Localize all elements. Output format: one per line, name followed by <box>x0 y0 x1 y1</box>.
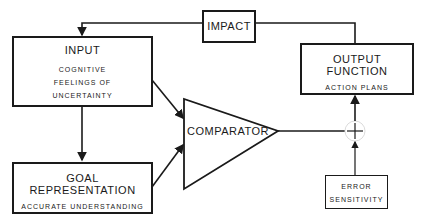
goal-title: GOAL REPRESENTATION <box>14 172 151 196</box>
error-line-2: SENSITIVITY <box>326 193 387 206</box>
error-sensitivity-box: ERROR SENSITIVITY <box>325 175 388 209</box>
input-box: INPUT COGNITIVE FEELINGS OF UNCERTAINTY <box>12 36 153 107</box>
error-line-1: ERROR <box>326 180 387 193</box>
edge-impact-to-input <box>82 23 202 35</box>
comparator-triangle <box>184 99 278 189</box>
input-title: INPUT <box>14 44 151 56</box>
input-line-1: COGNITIVE <box>14 63 151 76</box>
output-title: OUTPUT FUNCTION <box>302 53 412 77</box>
goal-representation-box: GOAL REPRESENTATION ACCURATE UNDERSTANDI… <box>12 162 153 214</box>
input-line-2: FEELINGS OF <box>14 76 151 89</box>
edge-output-to-impact <box>255 23 355 43</box>
goal-subtitle: ACCURATE UNDERSTANDING <box>14 200 151 213</box>
output-subtitle: ACTION PLANS <box>302 81 412 94</box>
edge-input-to-comparator <box>152 80 183 118</box>
output-function-box: OUTPUT FUNCTION ACTION PLANS <box>300 43 414 95</box>
input-line-3: UNCERTAINTY <box>14 89 151 102</box>
impact-title: IMPACT <box>204 20 254 32</box>
impact-box: IMPACT <box>202 10 256 43</box>
comparator-label: COMPARATOR <box>187 125 269 137</box>
edge-goal-to-comparator <box>152 145 183 187</box>
